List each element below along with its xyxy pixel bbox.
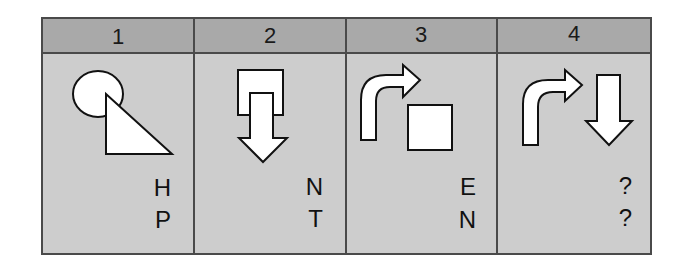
panel-2-code-line-2: T <box>308 205 323 232</box>
square-icon <box>408 105 452 150</box>
panel-3-code-line-1: E <box>460 173 476 200</box>
panel-1-code-line-1: H <box>154 174 171 201</box>
panel-3-number: 3 <box>415 22 427 47</box>
panel-1-code-line-2: P <box>155 206 171 233</box>
panel-2-number: 2 <box>264 23 276 48</box>
panel-4-number: 4 <box>568 21 580 46</box>
panel-4-code-line-1: ? <box>619 172 632 199</box>
panel-1-number: 1 <box>112 24 124 49</box>
panel-2-code-line-1: N <box>306 173 323 200</box>
panel-4-code-line-2: ? <box>619 204 632 231</box>
panel-3-code-line-2: N <box>459 206 476 233</box>
code-puzzle-table: 1 2 3 4 H P N T E N ? ? <box>0 0 691 271</box>
